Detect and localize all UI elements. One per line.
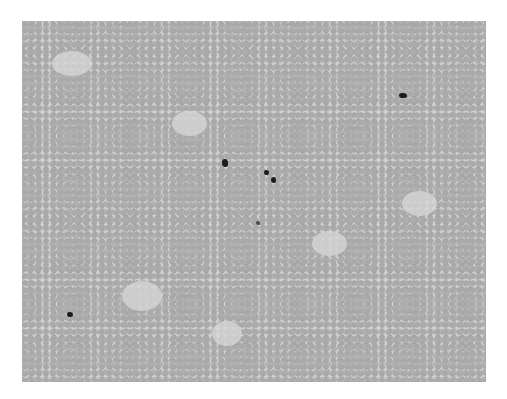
cell-free-patch: [212, 321, 242, 346]
cell-free-patch: [402, 191, 437, 216]
leukocyte-cluster: [264, 170, 269, 175]
leukocyte-cluster: [222, 159, 228, 167]
blood-smear-micrograph: [22, 21, 486, 382]
leukocyte-cluster: [399, 93, 407, 98]
cell-free-patch: [312, 231, 347, 256]
leukocyte-cluster: [67, 312, 73, 317]
leukocyte-cluster: [271, 177, 276, 183]
platelet: [256, 221, 260, 225]
cell-free-patch: [172, 111, 207, 136]
cell-free-patch: [52, 51, 92, 76]
cell-free-patch: [122, 281, 162, 311]
